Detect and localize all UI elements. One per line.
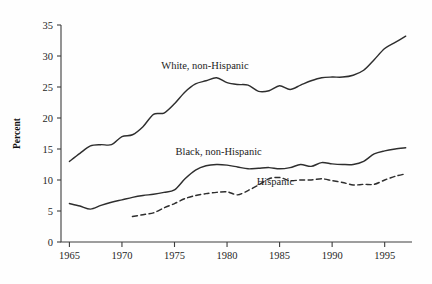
x-tick-label: 1995 (374, 250, 395, 261)
axes-layer (61, 25, 412, 242)
series-label-hispanic: Hispanic (257, 176, 295, 187)
y-tick-label: 15 (43, 144, 54, 155)
axis-ticks-layer (57, 25, 385, 247)
x-tick-label: 1970 (111, 250, 132, 261)
y-tick-label: 0 (48, 237, 53, 248)
chart-axes (61, 25, 412, 242)
y-axis-title: Percent (12, 117, 22, 149)
x-axis-tick-labels: 1965197019751980198519901995 (59, 250, 395, 261)
y-tick-label: 35 (43, 20, 54, 31)
chart-plot-area: 05101520253035 1965197019751980198519901… (0, 0, 432, 284)
y-tick-label: 10 (43, 175, 54, 186)
y-tick-label: 20 (43, 113, 54, 124)
series-label-white-non-hispanic: White, non-Hispanic (161, 60, 249, 71)
series-label-black-non-hispanic: Black, non-Hispanic (175, 146, 262, 157)
line-chart-figure: 05101520253035 1965197019751980198519901… (0, 0, 432, 284)
series-line-white-non-hispanic (69, 36, 405, 161)
x-tick-label: 1990 (322, 250, 343, 261)
x-tick-label: 1985 (269, 250, 290, 261)
y-axis-tick-labels: 05101520253035 (43, 20, 54, 248)
y-tick-label: 25 (43, 82, 54, 93)
y-tick-label: 5 (48, 206, 53, 217)
x-tick-label: 1980 (217, 250, 238, 261)
x-tick-label: 1965 (59, 250, 80, 261)
y-tick-label: 30 (43, 51, 54, 62)
x-tick-label: 1975 (164, 250, 185, 261)
y-axis-title-text: Percent (12, 117, 22, 149)
